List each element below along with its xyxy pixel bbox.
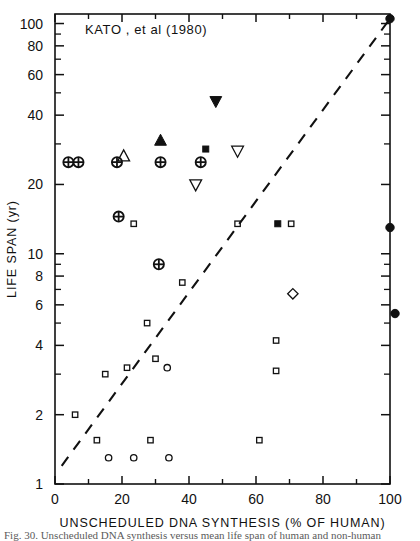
series-filled-square — [203, 146, 281, 227]
x-tick-label: 20 — [114, 491, 130, 507]
marker-square — [203, 146, 209, 152]
marker-triangle-down — [210, 97, 222, 108]
marker-square — [275, 221, 281, 227]
marker-circle — [164, 364, 170, 370]
series-open-diamond — [288, 289, 298, 299]
marker-square — [273, 368, 278, 373]
marker-square — [72, 412, 77, 417]
marker-square — [103, 371, 108, 376]
marker-square — [288, 221, 293, 226]
marker-square — [131, 221, 136, 226]
plot-frame — [55, 14, 390, 484]
series-circled-plus — [63, 157, 206, 269]
marker-square — [257, 437, 262, 442]
marker-circle — [386, 223, 394, 231]
x-tick-label: 80 — [315, 491, 331, 507]
reference-dashed-line — [62, 19, 390, 466]
reference-line — [62, 19, 390, 466]
series-open-triangle-up — [118, 150, 130, 161]
y-tick-label: 6 — [35, 297, 43, 313]
marker-square — [273, 338, 278, 343]
marker-triangle-up — [118, 150, 130, 161]
y-tick-label: 60 — [27, 67, 43, 83]
marker-circle — [166, 455, 172, 461]
plot-title: KATO , et al (1980) — [85, 22, 207, 37]
y-tick-label: 20 — [27, 176, 43, 192]
marker-triangle-down — [232, 146, 244, 157]
marker-circle — [105, 455, 111, 461]
marker-circle — [131, 455, 137, 461]
marker-diamond — [288, 289, 298, 299]
y-tick-label: 4 — [35, 337, 43, 353]
y-tick-label: 80 — [27, 38, 43, 54]
x-tick-label: 40 — [181, 491, 197, 507]
y-tick-label: 8 — [35, 268, 43, 284]
y-tick-label: 1 — [35, 476, 43, 492]
marker-triangle-up — [155, 134, 167, 145]
x-tick-label: 60 — [248, 491, 264, 507]
marker-square — [144, 320, 149, 325]
y-axis-title: LIFE SPAN (yr) — [5, 200, 19, 298]
marker-circle — [391, 309, 399, 317]
marker-square — [148, 437, 153, 442]
axis-labels-layer: 020406080100124681020406080100KATO , et … — [5, 16, 402, 530]
y-tick-label: 10 — [27, 246, 43, 262]
x-tick-label: 100 — [378, 491, 402, 507]
marker-square — [124, 365, 129, 370]
series-filled-triangle-up — [155, 134, 167, 145]
y-tick-label: 40 — [27, 107, 43, 123]
x-axis-title: UNSCHEDULED DNA SYNTHESIS (% OF HUMAN) — [60, 516, 386, 530]
marker-triangle-down — [190, 180, 202, 191]
marker-square — [180, 280, 185, 285]
marker-square — [153, 356, 158, 361]
marker-circle — [386, 14, 394, 22]
series-open-triangle-down — [190, 146, 244, 191]
series-open-square — [72, 221, 293, 443]
x-tick-label: 0 — [51, 491, 59, 507]
series-filled-triangle-down — [210, 97, 222, 108]
series-filled-circle — [386, 14, 399, 317]
figure-caption: Fig. 30. Unscheduled DNA synthesis versu… — [0, 529, 420, 541]
marker-square — [94, 437, 99, 442]
y-tick-label: 2 — [35, 407, 43, 423]
series-open-circle — [105, 364, 172, 460]
axes-layer — [55, 14, 390, 484]
y-tick-label: 100 — [20, 16, 44, 32]
